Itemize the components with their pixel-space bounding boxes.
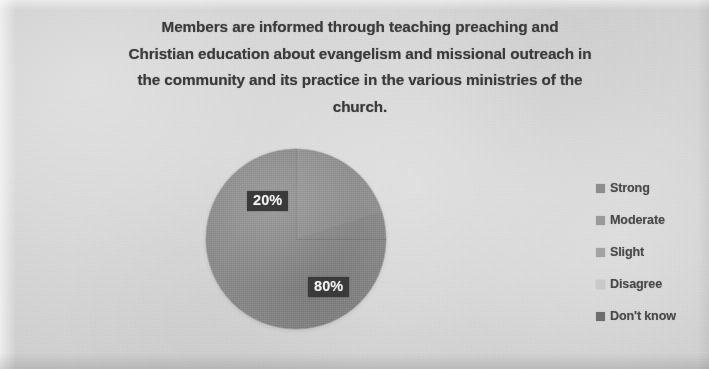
legend-swatch-icon-slight xyxy=(596,248,605,257)
legend-item-disagree: Disagree xyxy=(596,268,709,300)
legend-label-strong: Strong xyxy=(610,181,650,195)
legend-swatch-icon-moderate xyxy=(596,216,605,225)
pie-slices xyxy=(206,149,386,329)
legend-item-dont-know: Don't know xyxy=(596,300,709,332)
chart-legend: Strong Moderate Slight Disagree Don't kn… xyxy=(596,172,709,332)
legend-swatch-icon-disagree xyxy=(596,280,605,289)
legend-label-dont-know: Don't know xyxy=(610,309,676,323)
slice-label-moderate: 80% xyxy=(308,277,349,297)
legend-swatch-icon-strong xyxy=(596,184,605,193)
legend-item-moderate: Moderate xyxy=(596,204,709,236)
legend-item-strong: Strong xyxy=(596,172,709,204)
pie-chart xyxy=(206,149,386,329)
legend-label-moderate: Moderate xyxy=(610,213,665,227)
legend-swatch-icon-dont-know xyxy=(596,312,605,321)
legend-item-slight: Slight xyxy=(596,236,709,268)
slice-label-strong: 20% xyxy=(247,191,288,211)
legend-label-disagree: Disagree xyxy=(610,277,662,291)
chart-scan-image: Members are informed through teaching pr… xyxy=(0,0,709,369)
legend-label-slight: Slight xyxy=(610,245,644,259)
